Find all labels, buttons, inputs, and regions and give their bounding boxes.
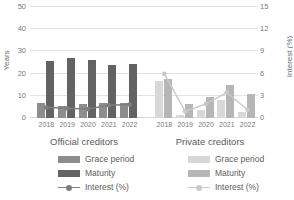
- legend-label: Maturity: [215, 168, 245, 178]
- bar-grace-period-official-2020: [79, 104, 87, 118]
- x-label-private-2022: 2022: [236, 121, 260, 129]
- group-title-official: Official creditors: [14, 136, 154, 147]
- bar-maturity-private-2020: [206, 97, 214, 118]
- legend-label: Grace period: [215, 154, 264, 164]
- bar-grace-period-official-2022: [120, 103, 128, 118]
- group-official-creditors: [36, 6, 140, 118]
- y-right-tick-0: 0: [260, 114, 284, 122]
- legend-item-official-maturity[interactable]: Maturity: [58, 166, 134, 180]
- bar-maturity-official-2021: [108, 65, 116, 118]
- bar-grace-period-private-2021: [217, 100, 225, 118]
- legend-item-official-interest[interactable]: Interest (%): [58, 180, 134, 194]
- bar-cluster-official-2019: [57, 6, 78, 118]
- legend-item-official-grace-period[interactable]: Grace period: [58, 152, 134, 166]
- bar-grace-period-private-2020: [197, 110, 205, 118]
- bar-maturity-private-2021: [226, 85, 234, 118]
- legend-color-swatch-official: [58, 170, 80, 177]
- bar-grace-period-private-2019: [176, 115, 184, 118]
- bar-cluster-private-2019: [175, 6, 196, 118]
- y-axis-left-title: Years: [2, 39, 11, 83]
- bar-cluster-private-2021: [216, 6, 237, 118]
- legend-label: Interest (%): [85, 182, 129, 192]
- bar-maturity-official-2018: [46, 61, 54, 118]
- x-label-official-2022: 2022: [118, 121, 142, 129]
- legend-official: Grace periodMaturityInterest (%): [58, 152, 134, 194]
- group-title-private: Private creditors: [140, 136, 280, 147]
- bar-grace-period-official-2018: [37, 103, 45, 118]
- plot-area: [30, 6, 258, 118]
- y-right-tick-3: 3: [260, 92, 284, 100]
- legend-item-private-interest[interactable]: Interest (%): [188, 180, 264, 194]
- y-right-tick-15: 15: [260, 3, 284, 11]
- legend-item-private-maturity[interactable]: Maturity: [188, 166, 264, 180]
- legend-label: Grace period: [85, 154, 134, 164]
- y-left-tick-40: 40: [4, 25, 26, 33]
- bar-cluster-private-2022: [237, 6, 258, 118]
- bar-maturity-official-2019: [67, 58, 75, 118]
- bar-grace-period-official-2019: [58, 106, 66, 118]
- group-private-creditors: [154, 6, 258, 118]
- bar-cluster-official-2022: [119, 6, 140, 118]
- bar-grace-period-private-2022: [238, 112, 246, 118]
- bar-cluster-official-2021: [98, 6, 119, 118]
- y-left-tick-10: 10: [4, 92, 26, 100]
- bars-private: [154, 6, 258, 118]
- bar-cluster-private-2018: [154, 6, 175, 118]
- legend-line-swatch-official: [58, 184, 80, 191]
- y-left-tick-0: 0: [4, 114, 26, 122]
- legend-color-swatch-private: [188, 156, 210, 163]
- legend-color-swatch-official: [58, 156, 80, 163]
- y-right-tick-6: 6: [260, 70, 284, 78]
- bars-official: [36, 6, 140, 118]
- legend-color-swatch-private: [188, 170, 210, 177]
- chart-container: 50 40 30 20 10 0 15 12 9 6 3 0 Years Int…: [0, 0, 293, 200]
- legend-item-private-grace-period[interactable]: Grace period: [188, 152, 264, 166]
- y-axis-right-title: Interest (%): [285, 30, 294, 84]
- legend-line-swatch-private: [188, 184, 210, 191]
- legend-label: Maturity: [85, 168, 115, 178]
- bar-maturity-official-2022: [129, 64, 137, 118]
- bar-grace-period-official-2021: [99, 103, 107, 118]
- bar-cluster-private-2020: [196, 6, 217, 118]
- bar-cluster-official-2020: [78, 6, 99, 118]
- bar-maturity-private-2022: [247, 94, 255, 118]
- bar-cluster-official-2018: [36, 6, 57, 118]
- bar-maturity-official-2020: [88, 60, 96, 118]
- legend-private: Grace periodMaturityInterest (%): [188, 152, 264, 194]
- bar-grace-period-private-2018: [155, 81, 163, 118]
- bar-maturity-private-2018: [164, 79, 172, 118]
- y-right-tick-9: 9: [260, 47, 284, 55]
- y-right-tick-12: 12: [260, 25, 284, 33]
- legend-label: Interest (%): [215, 182, 259, 192]
- y-left-tick-50: 50: [4, 3, 26, 11]
- bar-maturity-private-2019: [185, 104, 193, 118]
